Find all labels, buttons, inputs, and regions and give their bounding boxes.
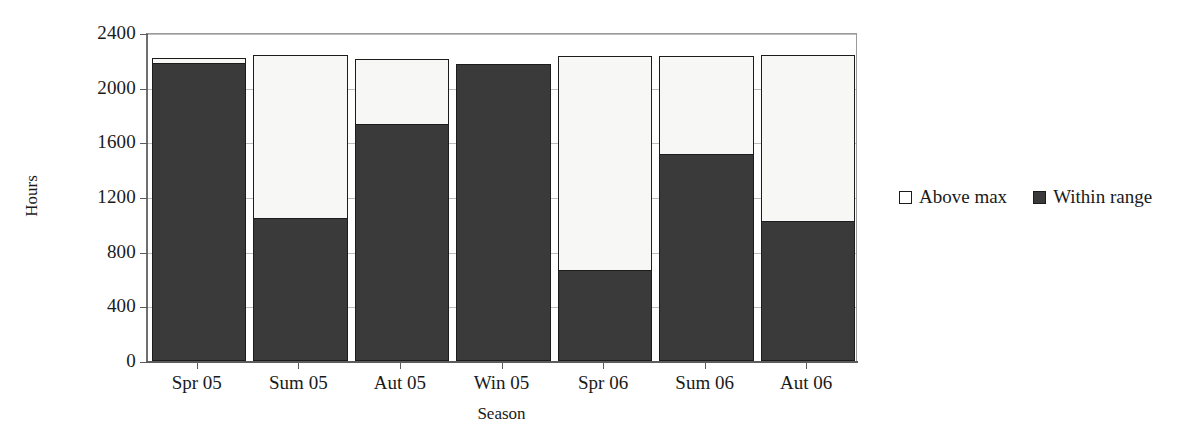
bar-stack xyxy=(761,33,855,361)
y-axis-tick-label: 400 xyxy=(107,295,136,317)
bar-segment-above-max[interactable] xyxy=(659,56,753,155)
legend-swatch-icon xyxy=(1033,191,1046,204)
y-axis-tick xyxy=(140,89,148,90)
bar-stack xyxy=(456,33,550,361)
x-axis-tick xyxy=(400,361,401,369)
bar-group[interactable] xyxy=(558,34,652,361)
y-axis-tick-label: 1600 xyxy=(97,131,136,153)
x-axis-tick-label: Aut 06 xyxy=(780,372,832,394)
x-axis-tick xyxy=(806,361,807,369)
chart-legend: Above maxWithin range xyxy=(899,186,1152,208)
chart-figure: 04008001200160020002400 Hours Spr 05Sum … xyxy=(0,0,1198,447)
x-axis-tick xyxy=(705,361,706,369)
legend-swatch-icon xyxy=(899,191,912,204)
legend-label: Within range xyxy=(1053,186,1152,208)
x-axis-tick-label: Aut 05 xyxy=(374,372,426,394)
y-axis-tick xyxy=(140,143,148,144)
y-axis-title: Hours xyxy=(22,175,42,217)
bar-segment-above-max[interactable] xyxy=(355,59,449,125)
legend-label: Above max xyxy=(919,186,1007,208)
y-axis-tick-label: 0 xyxy=(126,350,136,372)
y-axis-tick-label: 1200 xyxy=(97,186,136,208)
y-axis-tick-label: 800 xyxy=(107,241,136,263)
x-axis-title: Season xyxy=(146,404,857,424)
x-axis-tick-label: Win 05 xyxy=(474,372,530,394)
bar-group[interactable] xyxy=(355,34,449,361)
bar-series-container xyxy=(148,34,856,361)
plot-area xyxy=(146,33,857,361)
x-axis-tick xyxy=(298,361,299,369)
y-axis-tick-labels: 04008001200160020002400 xyxy=(62,33,136,361)
bar-group[interactable] xyxy=(152,34,246,361)
y-axis-tick-label: 2400 xyxy=(97,22,136,44)
legend-item-above-max[interactable]: Above max xyxy=(899,186,1007,208)
bar-stack xyxy=(659,33,753,361)
bar-segment-within-range[interactable] xyxy=(659,154,753,361)
x-axis-tick xyxy=(502,361,503,369)
bar-segment-above-max[interactable] xyxy=(761,55,855,222)
y-axis-tick xyxy=(140,253,148,254)
x-axis-tick xyxy=(603,361,604,369)
bar-stack xyxy=(355,33,449,361)
bar-segment-within-range[interactable] xyxy=(253,217,347,361)
y-axis-tick xyxy=(140,34,148,35)
bar-segment-within-range[interactable] xyxy=(558,269,652,361)
bar-stack xyxy=(253,33,347,361)
bar-segment-within-range[interactable] xyxy=(761,220,855,361)
bar-segment-within-range[interactable] xyxy=(456,64,550,361)
y-axis-tick xyxy=(140,307,148,308)
y-axis-tick-label: 2000 xyxy=(97,77,136,99)
x-axis-tick-label: Spr 06 xyxy=(578,372,628,394)
x-axis-tick-label: Spr 05 xyxy=(172,372,222,394)
x-axis-tick-label: Sum 05 xyxy=(269,372,328,394)
x-axis-tick-label: Sum 06 xyxy=(675,372,734,394)
bar-stack xyxy=(558,33,652,361)
legend-item-within-range[interactable]: Within range xyxy=(1033,186,1152,208)
bar-stack xyxy=(152,33,246,361)
bar-group[interactable] xyxy=(761,34,855,361)
x-axis-tick xyxy=(197,361,198,369)
bar-group[interactable] xyxy=(456,34,550,361)
bar-segment-within-range[interactable] xyxy=(355,123,449,361)
bar-segment-within-range[interactable] xyxy=(152,63,246,361)
y-axis-tick xyxy=(140,198,148,199)
bar-segment-above-max[interactable] xyxy=(152,58,246,65)
bar-segment-above-max[interactable] xyxy=(558,56,652,271)
bar-group[interactable] xyxy=(253,34,347,361)
bar-group[interactable] xyxy=(659,34,753,361)
bar-segment-above-max[interactable] xyxy=(253,55,347,219)
